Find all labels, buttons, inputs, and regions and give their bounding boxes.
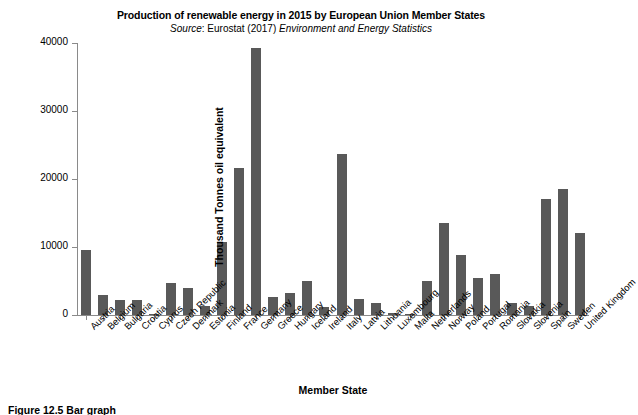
y-tick-label: 40000	[40, 36, 68, 47]
y-tick: 0	[72, 315, 77, 316]
y-tick-label: 30000	[40, 104, 68, 115]
x-tick	[86, 315, 87, 320]
y-axis-title: Thousand Tonnes oil equivalent	[213, 51, 225, 323]
chart-title: Production of renewable energy in 2015 b…	[0, 9, 602, 22]
y-tick: 30000	[72, 111, 77, 112]
chart-subtitle-italic: Environment and Energy Statistics	[279, 23, 432, 34]
bar	[81, 250, 91, 315]
y-tick: 10000	[72, 247, 77, 248]
bar	[558, 189, 568, 315]
bar	[251, 48, 261, 315]
figure-caption: Figure 12.5 Bar graph	[8, 404, 116, 415]
chart-subtitle-source-label: Source	[170, 23, 202, 34]
y-tick-label: 0	[62, 308, 68, 319]
y-tick-label: 20000	[40, 172, 68, 183]
chart-subtitle: Source: Eurostat (2017) Environment and …	[0, 22, 602, 35]
bar	[575, 233, 585, 315]
y-tick-label: 10000	[40, 240, 68, 251]
chart-subtitle-middle: : Eurostat (2017)	[202, 23, 279, 34]
bar	[439, 223, 449, 315]
bar	[337, 154, 347, 315]
bar	[541, 199, 551, 315]
chart-title-block: Production of renewable energy in 2015 b…	[0, 9, 602, 35]
y-axis-line	[77, 43, 78, 315]
y-tick: 20000	[72, 179, 77, 180]
y-tick: 40000	[72, 43, 77, 44]
x-axis-title: Member State	[77, 384, 589, 396]
bar	[234, 168, 244, 315]
plot-area: 010000200003000040000 AustriaBelgiumBulg…	[77, 43, 589, 315]
